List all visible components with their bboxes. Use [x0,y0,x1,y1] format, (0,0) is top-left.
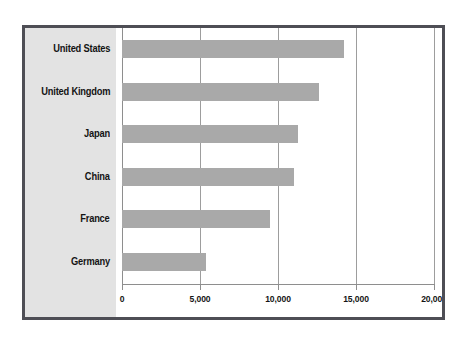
gridline-20000 [434,28,435,284]
bar [122,125,298,143]
category-label: United States [53,43,110,55]
bar [122,253,206,271]
tick-mark-0 [122,285,123,290]
tick-mark-5000 [200,285,201,290]
gridline-10000 [278,28,279,284]
x-tick-label: 5,000 [190,294,211,304]
tick-mark-20000 [434,285,435,290]
bar [122,83,319,101]
gridline-5000 [200,28,201,284]
category-label: Germany [71,256,110,268]
bar [122,168,294,186]
bar [122,210,270,228]
category-label: Japan [84,128,110,140]
tick-mark-10000 [278,285,279,290]
gridline-15000 [356,28,357,284]
category-label: China [85,171,110,183]
y-axis-line [122,28,123,284]
x-tick-label: 10,000 [265,294,291,304]
category-label-panel: United StatesUnited KingdomJapanChinaFra… [25,28,116,317]
x-tick-label: 0 [120,294,125,304]
tick-mark-15000 [356,285,357,290]
bar [122,40,344,58]
plot-area: 05,00010,00015,00020,000 [116,28,442,317]
x-tick-label: 20,000 [421,294,445,304]
category-label: France [81,213,110,225]
category-label: United Kingdom [41,86,110,98]
chart-frame: United StatesUnited KingdomJapanChinaFra… [22,25,445,320]
x-tick-label: 15,000 [343,294,369,304]
